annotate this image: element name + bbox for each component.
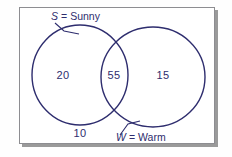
set-equals-warm: = <box>129 131 135 143</box>
set-name-sunny: Sunny <box>70 10 101 22</box>
venn-diagram-figure: 20 55 15 10 S=Sunny W=Warm <box>0 0 232 157</box>
value-intersection: 55 <box>108 69 121 81</box>
set-symbol-sunny: S <box>51 10 58 22</box>
value-warm-only: 15 <box>157 69 170 81</box>
value-outside: 10 <box>74 127 87 139</box>
value-sunny-only: 20 <box>57 69 70 81</box>
set-label-warm: W=Warm <box>116 131 166 143</box>
set-name-warm: Warm <box>138 131 166 143</box>
set-symbol-warm: W <box>116 131 127 143</box>
venn-canvas: 20 55 15 10 S=Sunny W=Warm <box>0 0 232 157</box>
set-label-sunny: S=Sunny <box>51 10 101 22</box>
set-equals-sunny: = <box>61 10 67 22</box>
